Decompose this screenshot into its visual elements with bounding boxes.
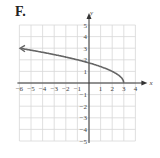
x-tick-label: −6 <box>16 85 24 93</box>
x-tick-label: −2 <box>62 85 70 93</box>
x-tick-label: 2 <box>110 85 114 93</box>
x-tick-label: −4 <box>39 85 47 93</box>
y-tick-label: −4 <box>80 126 88 134</box>
y-tick-label: 1 <box>84 68 88 76</box>
y-tick-label: 3 <box>84 45 88 53</box>
x-tick-label: 3 <box>122 85 126 93</box>
x-tick-label: 4 <box>134 85 138 93</box>
x-tick-label: −3 <box>50 85 58 93</box>
x-tick-label: 1 <box>99 85 103 93</box>
y-tick-label: −5 <box>80 138 88 146</box>
y-tick-label: −2 <box>80 103 88 111</box>
x-axis-label: x <box>148 79 153 87</box>
y-tick-label: −1 <box>80 91 88 99</box>
function-graph: xy−6−5−4−3−2−1123454321−1−2−3−4−5 <box>0 0 160 158</box>
y-axis-label: y <box>89 9 94 17</box>
y-tick-label: 4 <box>84 33 88 41</box>
function-curve <box>21 49 124 84</box>
x-axis-arrow-icon <box>141 81 147 86</box>
y-tick-label: 5 <box>84 22 88 30</box>
y-tick-label: −3 <box>80 114 88 122</box>
x-tick-label: −5 <box>27 85 35 93</box>
